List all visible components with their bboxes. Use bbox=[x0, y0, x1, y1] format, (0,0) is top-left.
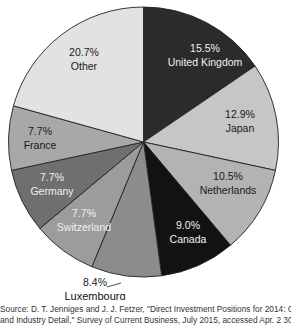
luxembourg-leader-line bbox=[107, 283, 121, 287]
slice-percent-label: 7.7% bbox=[40, 171, 64, 183]
slice-category-label: Netherlands bbox=[200, 184, 257, 196]
slice-category-label: Switzerland bbox=[57, 221, 111, 233]
slice-category-label: Canada bbox=[170, 233, 207, 245]
slice-percent-label: 15.5% bbox=[190, 42, 220, 54]
slice-category-label: France bbox=[24, 139, 57, 151]
slice-category-label: Other bbox=[71, 60, 98, 72]
slice-percent-label: 12.9% bbox=[225, 108, 255, 120]
slice-percent-label: 7.7% bbox=[72, 207, 96, 219]
slice-category-label: Luxembourg bbox=[64, 290, 125, 300]
source-line-1: Source: D. T. Jenniges and J. J. Fetzer,… bbox=[0, 304, 291, 315]
slice-category-label: Germany bbox=[30, 185, 74, 197]
slice-category-label: United Kingdom bbox=[168, 56, 243, 68]
slice-percent-label: 7.7% bbox=[28, 125, 52, 137]
slice-percent-label: 10.5% bbox=[213, 170, 243, 182]
source-line-2: and Industry Detail," Survey of Current … bbox=[0, 315, 291, 326]
slice-category-label: Japan bbox=[226, 122, 255, 134]
source-citation: Source: D. T. Jenniges and J. J. Fetzer,… bbox=[0, 304, 291, 326]
slice-percent-label: 20.7% bbox=[69, 46, 99, 58]
slice-percent-label: 8.4% bbox=[83, 276, 107, 288]
pie-chart: 15.5%United Kingdom12.9%Japan10.5%Nether… bbox=[0, 0, 291, 300]
slice-percent-label: 9.0% bbox=[176, 219, 200, 231]
